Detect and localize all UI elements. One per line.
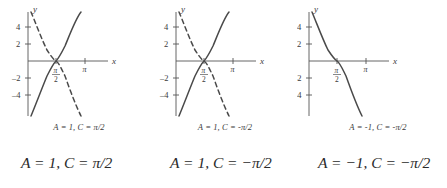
figure-root: y x 4 2 –2 –4 π 2 π A = 1, C = π/2 bbox=[0, 0, 447, 188]
panel-caption-2: A = 1, C = -π/2 bbox=[150, 122, 300, 132]
y-tick-label-neg4: –4 bbox=[159, 90, 169, 100]
chart-panel-3: y x 4 2 –2 –4 π 2 π A = -1, C = -π/2 bbox=[297, 0, 447, 148]
chart-panel-1: y x 4 2 –2 –4 π 2 π A = 1, C = π/2 bbox=[2, 0, 152, 148]
y-tick-label-neg2: –2 bbox=[297, 73, 302, 83]
y-tick-label-2: 2 bbox=[164, 39, 168, 49]
panel-caption-1: A = 1, C = π/2 bbox=[2, 122, 154, 132]
y-axis-label: y bbox=[313, 4, 318, 14]
chart-panel-2: y x 4 2 –2 –4 π 2 π A = 1, C = -π/2 bbox=[150, 0, 300, 148]
x-tick-label-pi-over-2-den: 2 bbox=[202, 75, 206, 84]
plot-svg-1: y x 4 2 –2 –4 π 2 π bbox=[2, 0, 152, 122]
plot-svg-2: y x 4 2 –2 –4 π 2 π bbox=[150, 0, 300, 122]
y-tick-label-4: 4 bbox=[16, 22, 21, 32]
bottom-caption-3: A = −1, C = −π/2 bbox=[318, 154, 430, 172]
bottom-caption-row: A = 1, C = π/2 A = 1, C = −π/2 A = −1, C… bbox=[0, 148, 447, 188]
bottom-caption-2: A = 1, C = −π/2 bbox=[170, 154, 272, 172]
y-tick-label-neg2: –2 bbox=[159, 73, 169, 83]
plot-svg-3: y x 4 2 –2 –4 π 2 π bbox=[297, 0, 447, 122]
bottom-caption-1: A = 1, C = π/2 bbox=[21, 154, 112, 172]
x-tick-label-pi-over-2-num: π bbox=[335, 66, 339, 75]
x-tick-label-pi: π bbox=[83, 65, 88, 74]
panel-caption-3: A = -1, C = -π/2 bbox=[297, 122, 447, 132]
x-axis-label: x bbox=[111, 56, 116, 66]
plot-area-1: y x 4 2 –2 –4 π 2 π bbox=[2, 0, 152, 122]
y-axis-label: y bbox=[32, 4, 37, 14]
y-tick-label-4: 4 bbox=[297, 22, 302, 32]
x-tick-label-pi: π bbox=[231, 65, 236, 74]
plot-area-2: y x 4 2 –2 –4 π 2 π bbox=[150, 0, 300, 122]
y-tick-label-2: 2 bbox=[297, 39, 301, 49]
y-tick-label-neg2: –2 bbox=[11, 73, 21, 83]
x-axis-label: x bbox=[392, 56, 397, 66]
y-tick-label-neg4: –4 bbox=[297, 90, 302, 100]
y-tick-label-4: 4 bbox=[164, 22, 169, 32]
x-tick-label-pi: π bbox=[364, 65, 369, 74]
x-tick-label-pi-over-2-num: π bbox=[54, 66, 58, 75]
y-axis-label: y bbox=[180, 4, 185, 14]
y-tick-label-2: 2 bbox=[16, 39, 20, 49]
x-tick-label-pi-over-2-den: 2 bbox=[335, 75, 339, 84]
x-axis-label: x bbox=[259, 56, 264, 66]
panels-row: y x 4 2 –2 –4 π 2 π A = 1, C = π/2 bbox=[0, 0, 447, 148]
x-tick-label-pi-over-2-num: π bbox=[202, 66, 206, 75]
x-tick-label-pi-over-2-den: 2 bbox=[54, 75, 58, 84]
y-tick-label-neg4: –4 bbox=[11, 90, 21, 100]
plot-area-3: y x 4 2 –2 –4 π 2 π bbox=[297, 0, 447, 122]
